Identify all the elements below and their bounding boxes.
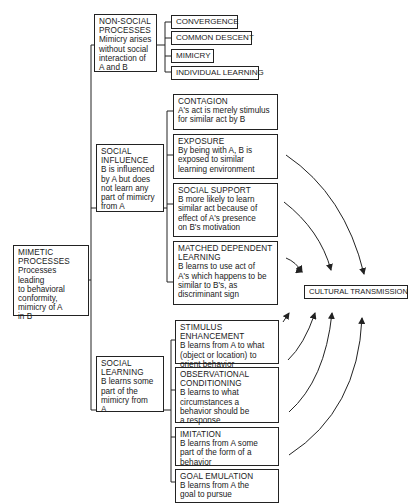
cultural-transmission-box: CULTURAL TRANSMISSION bbox=[304, 285, 408, 299]
imitation-box: IMITATION B learns from A some part of t… bbox=[175, 427, 279, 466]
social-learning-box: SOCIAL LEARNING B learns some part of th… bbox=[96, 356, 164, 412]
individual-learning-box: INDIVIDUAL LEARNING bbox=[171, 66, 259, 80]
matched-dependent-learning-box: MATCHED DEPENDENT LEARNING B learns to u… bbox=[173, 241, 278, 305]
mimetic-processes-box: MIMETIC PROCESSES Processes leading to b… bbox=[13, 245, 89, 316]
mimicry-box: MIMICRY bbox=[171, 49, 214, 63]
social-influence-box: SOCIAL INFLUENCE B is influenced by A bu… bbox=[96, 144, 164, 212]
observational-conditioning-box: OBSERVATIONAL CONDITIONING B learns to w… bbox=[175, 367, 279, 423]
non-social-processes-box: NON-SOCIAL PROCESSES Mimicry arises with… bbox=[94, 14, 157, 72]
convergence-box: CONVERGENCE bbox=[171, 15, 238, 29]
exposure-box: EXPOSURE By being with A, B is exposed t… bbox=[173, 134, 278, 179]
contagion-box: CONTAGION A's act is merely stimulus for… bbox=[173, 94, 278, 130]
common-descent-box: COMMON DESCENT bbox=[171, 31, 252, 45]
stimulus-enhancement-box: STIMULUS ENHANCEMENT B learns from A to … bbox=[175, 320, 279, 364]
social-support-box: SOCIAL SUPPORT B more likely to learn si… bbox=[173, 183, 278, 237]
mimetic-processes-title: MIMETIC PROCESSES bbox=[18, 248, 84, 266]
goal-emulation-box: GOAL EMULATION B learns from A the goal … bbox=[175, 469, 279, 503]
